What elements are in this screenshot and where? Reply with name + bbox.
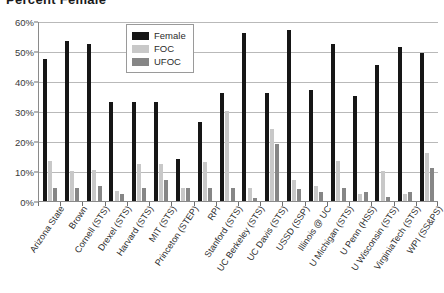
bar-group [416, 22, 438, 201]
bar-group [283, 22, 305, 201]
x-axis-label: Brown [67, 204, 90, 231]
bar-ufoc [386, 197, 390, 202]
x-axis-label: RPI [206, 204, 223, 222]
legend-label-female: Female [154, 29, 186, 42]
bar-foc [70, 171, 74, 201]
y-axis-tick-label: 60% [0, 17, 34, 28]
bar-female [265, 93, 269, 201]
page-title: Percent Female [6, 0, 186, 4]
bar-ufoc [142, 188, 146, 202]
bar-foc [403, 194, 407, 202]
bar-female [309, 90, 313, 201]
bar-ufoc [319, 192, 323, 201]
y-axis-tick-label: 20% [0, 137, 34, 148]
bar-female [398, 47, 402, 202]
bar-female [353, 96, 357, 201]
bar-group [349, 22, 371, 201]
bar-foc [248, 188, 252, 202]
bar-foc [292, 180, 296, 201]
legend-swatch-ufoc [132, 58, 149, 66]
bar-foc [358, 194, 362, 202]
bar-group [372, 22, 394, 201]
bar-ufoc [120, 194, 124, 202]
bar-ufoc [231, 188, 235, 202]
legend-item-female: Female [132, 29, 188, 42]
bar-foc [181, 188, 185, 202]
bar-female [198, 122, 202, 202]
bar-ufoc [75, 188, 79, 202]
bar-foc [92, 170, 96, 202]
bar-foc [115, 191, 119, 202]
bar-female [43, 59, 47, 202]
chart-legend: Female FOC UFOC [126, 24, 194, 73]
bar-female [109, 102, 113, 201]
bar-group [106, 22, 128, 201]
bar-female [287, 30, 291, 201]
bar-group [194, 22, 216, 201]
bar-ufoc [98, 186, 102, 201]
y-axis-tick-label: 10% [0, 167, 34, 178]
bar-ufoc [186, 188, 190, 202]
bar-ufoc [275, 144, 279, 201]
bar-female [420, 53, 424, 202]
bar-group [216, 22, 238, 201]
chart-title-clipped: Percent Female [6, 0, 186, 4]
legend-label-ufoc: UFOC [154, 55, 181, 68]
bar-female [154, 102, 158, 201]
y-axis-tick-label: 0% [0, 197, 34, 208]
bar-foc [314, 186, 318, 201]
legend-swatch-female [132, 32, 149, 40]
bar-group [305, 22, 327, 201]
bar-ufoc [430, 168, 434, 201]
bar-foc [336, 161, 340, 202]
bar-ufoc [53, 188, 57, 202]
bar-female [87, 44, 91, 202]
bar-groups [39, 22, 438, 201]
bar-ufoc [164, 180, 168, 201]
bar-foc [381, 171, 385, 201]
bar-female [65, 41, 69, 202]
legend-label-foc: FOC [154, 42, 174, 55]
bar-female [375, 65, 379, 202]
chart-figure: Percent Female 0%10%20%30%40%50%60% Ariz… [0, 0, 444, 293]
bar-foc [48, 161, 52, 202]
bar-female [132, 102, 136, 201]
bar-group [61, 22, 83, 201]
legend-item-foc: FOC [132, 42, 188, 55]
bar-ufoc [364, 192, 368, 201]
bar-group [261, 22, 283, 201]
bar-ufoc [408, 192, 412, 201]
y-axis-tick-label: 50% [0, 47, 34, 58]
x-axis-label: Arizona State [28, 204, 67, 254]
bar-group [83, 22, 105, 201]
bar-foc [137, 164, 141, 202]
bar-foc [159, 164, 163, 202]
bar-foc [225, 111, 229, 201]
bar-female [176, 159, 180, 201]
bar-ufoc [208, 188, 212, 202]
x-axis-labels: Arizona StateBrownCornell (STS)Drexel (S… [38, 204, 438, 290]
bar-ufoc [297, 189, 301, 201]
bar-ufoc [253, 198, 257, 201]
bar-female [220, 93, 224, 201]
y-axis-tick-label: 30% [0, 107, 34, 118]
bar-female [331, 44, 335, 202]
bar-group [327, 22, 349, 201]
bar-foc [425, 153, 429, 201]
bar-ufoc [342, 188, 346, 202]
bar-foc [203, 162, 207, 201]
bar-group [394, 22, 416, 201]
bar-group [239, 22, 261, 201]
bar-foc [270, 129, 274, 201]
legend-swatch-foc [132, 45, 149, 53]
plot-area [38, 22, 438, 202]
bar-group [39, 22, 61, 201]
bar-female [242, 33, 246, 201]
y-axis-tick-label: 40% [0, 77, 34, 88]
legend-item-ufoc: UFOC [132, 55, 188, 68]
